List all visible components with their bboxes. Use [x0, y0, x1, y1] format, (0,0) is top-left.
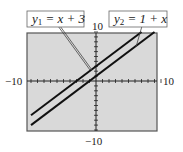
ymax-label: 10 [92, 20, 104, 32]
xmax-label: 10 [163, 75, 175, 87]
graph-canvas: y1 = x + 3 y2 = 1 + x 10 −10 10 −10 [0, 0, 183, 152]
plot-area [27, 33, 157, 131]
ymin-label: −10 [85, 135, 103, 147]
xmin-label: −10 [5, 75, 23, 87]
